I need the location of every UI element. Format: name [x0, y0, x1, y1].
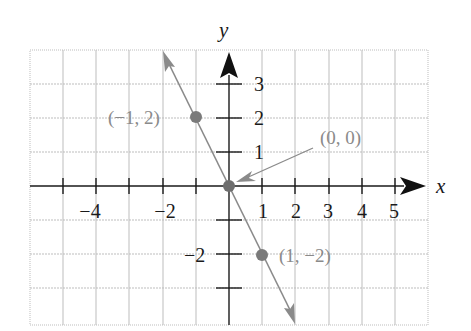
coordinate-graph: y x −4 −2 1 2 3 4 5 3 2 1 −2 (−1, 2) (0,… [0, 0, 471, 331]
origin-pointer [236, 148, 313, 182]
x-axis-label: x [435, 174, 446, 198]
line-arrow-down-icon [284, 303, 295, 324]
point-label-origin: (0, 0) [320, 127, 361, 149]
y-tick-label: 3 [254, 73, 264, 95]
y-tick-label: 2 [254, 107, 264, 129]
x-tick-label: −2 [154, 200, 175, 222]
point-origin [223, 180, 235, 192]
y-axis-arrow-icon [220, 52, 238, 78]
point-1-minus2 [256, 249, 268, 261]
x-tick-label: 5 [389, 200, 399, 222]
x-tick-label: 1 [258, 200, 268, 222]
point-label-1-minus2: (1, −2) [279, 245, 331, 267]
y-tick-label: 1 [254, 141, 264, 163]
x-axis [30, 178, 404, 194]
point-minus1-2 [190, 111, 202, 123]
x-tick-label: 2 [291, 200, 301, 222]
x-tick-label: 3 [323, 200, 333, 222]
y-tick-label: −2 [184, 244, 205, 266]
y-axis [216, 75, 242, 325]
x-tick-label: 4 [357, 200, 367, 222]
x-tick-label: −4 [79, 200, 100, 222]
pointer-arrow-icon [236, 171, 256, 182]
point-label-minus1-2: (−1, 2) [108, 107, 160, 129]
line-arrow-up-icon [163, 51, 175, 72]
y-axis-label: y [217, 18, 229, 42]
